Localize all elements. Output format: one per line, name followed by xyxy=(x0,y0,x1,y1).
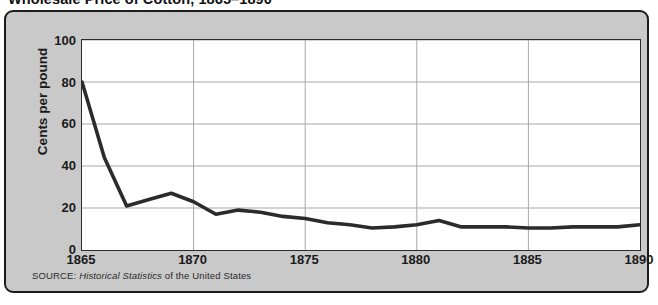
x-tick-1875: 1875 xyxy=(290,252,319,267)
plot-area xyxy=(81,39,641,251)
x-tick-1865: 1865 xyxy=(67,252,96,267)
source-rest: of the United States xyxy=(165,270,251,281)
x-tick-1890: 1890 xyxy=(625,252,654,267)
y-tick-60: 60 xyxy=(36,117,76,130)
y-tick-40: 40 xyxy=(36,159,76,172)
x-axis-ticks: 1865 1870 1875 1880 1885 1890 xyxy=(81,252,639,270)
x-tick-1885: 1885 xyxy=(513,252,542,267)
x-tick-1870: 1870 xyxy=(178,252,207,267)
y-tick-20: 20 xyxy=(36,201,76,214)
page-title: Wholesale Price of Cotton, 1865–1890 xyxy=(8,0,272,7)
chart-panel: Cents per pound 100 80 60 40 20 0 1865 1… xyxy=(4,10,649,293)
chart-svg xyxy=(82,40,640,250)
gridlines xyxy=(82,40,640,250)
figure-root: Wholesale Price of Cotton, 1865–1890 Cen… xyxy=(0,0,658,305)
y-tick-80: 80 xyxy=(36,76,76,89)
y-tick-100: 100 xyxy=(36,34,76,47)
data-line-series-0 xyxy=(82,82,640,228)
x-tick-1880: 1880 xyxy=(401,252,430,267)
source-title: Historical Statistics xyxy=(79,270,162,281)
source-label: SOURCE: xyxy=(32,270,76,281)
source-note: SOURCE: Historical Statistics of the Uni… xyxy=(32,270,251,281)
